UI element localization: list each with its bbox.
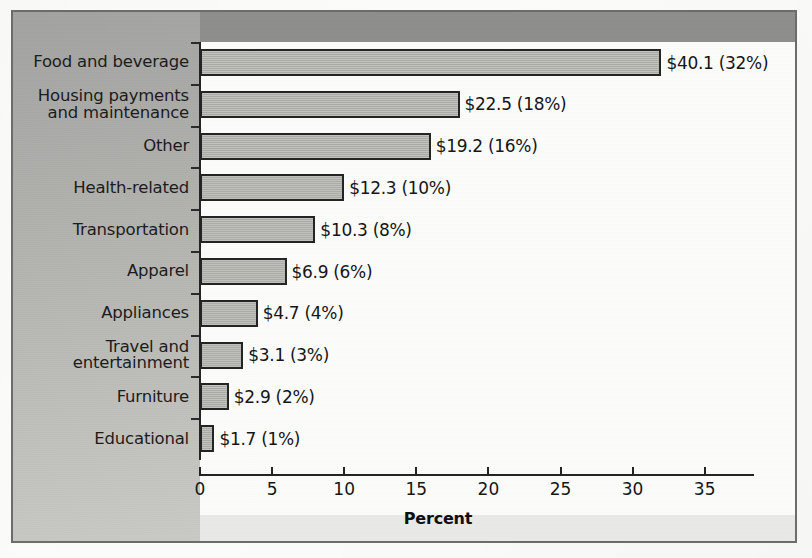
x-axis-tick <box>271 467 273 476</box>
bar-value-label: $3.1 (3%) <box>248 342 329 369</box>
x-axis-tick-label: 10 <box>324 479 364 499</box>
bar-value-label: $22.5 (18%) <box>465 91 567 118</box>
x-axis-tick <box>487 467 489 476</box>
bar-value-label: $12.3 (10%) <box>349 174 451 201</box>
bar-row: Food and beverage$40.1 (32%) <box>13 42 797 84</box>
bar-row: Apparel$6.9 (6%) <box>13 251 797 293</box>
x-axis-line <box>199 474 754 476</box>
bar-row: Travel and entertainment$3.1 (3%) <box>13 335 797 377</box>
category-label: Educational <box>13 418 189 460</box>
y-axis-line <box>199 42 201 460</box>
bar-value-label: $40.1 (32%) <box>666 49 768 76</box>
bar-value-label: $1.7 (1%) <box>219 425 300 452</box>
x-axis-tick <box>415 467 417 476</box>
bar <box>200 342 243 369</box>
bar-chart-figure: Food and beverage$40.1 (32%)Housing paym… <box>11 10 797 543</box>
category-label: Housing payments and maintenance <box>13 84 189 126</box>
bar <box>200 133 431 160</box>
bar-value-label: $6.9 (6%) <box>292 258 373 285</box>
bar-row: Educational$1.7 (1%) <box>13 418 797 460</box>
bar <box>200 174 344 201</box>
category-label: Appliances <box>13 293 189 335</box>
category-label: Travel and entertainment <box>13 335 189 377</box>
bar <box>200 300 258 327</box>
bar-rows: Food and beverage$40.1 (32%)Housing paym… <box>13 42 797 460</box>
x-axis-tick <box>343 467 345 476</box>
bar-row: Transportation$10.3 (8%) <box>13 209 797 251</box>
scanned-page: Food and beverage$40.1 (32%)Housing paym… <box>0 0 812 558</box>
x-axis-tick-label: 25 <box>541 479 581 499</box>
bar <box>200 91 460 118</box>
x-axis-tick-label: 20 <box>468 479 508 499</box>
x-axis-title: Percent <box>13 509 797 528</box>
category-label: Other <box>13 126 189 168</box>
category-label: Food and beverage <box>13 42 189 84</box>
bar-row: Health-related$12.3 (10%) <box>13 167 797 209</box>
x-axis-tick-label: 30 <box>613 479 653 499</box>
bar-row: Housing payments and maintenance$22.5 (1… <box>13 84 797 126</box>
x-axis-tick <box>704 467 706 476</box>
category-label: Apparel <box>13 251 189 293</box>
category-label: Furniture <box>13 376 189 418</box>
x-axis-tick-label: 0 <box>180 479 220 499</box>
bar-value-label: $10.3 (8%) <box>320 216 411 243</box>
bar-value-label: $4.7 (4%) <box>263 300 344 327</box>
bar <box>200 216 315 243</box>
x-axis-tick <box>199 467 201 476</box>
category-label: Transportation <box>13 209 189 251</box>
x-axis-tick <box>560 467 562 476</box>
bar <box>200 49 661 76</box>
bar-value-label: $2.9 (2%) <box>234 383 315 410</box>
x-axis-tick-label: 15 <box>396 479 436 499</box>
x-axis-tick <box>632 467 634 476</box>
bar-value-label: $19.2 (16%) <box>436 133 538 160</box>
category-label: Health-related <box>13 167 189 209</box>
bar-row: Other$19.2 (16%) <box>13 126 797 168</box>
bar-row: Appliances$4.7 (4%) <box>13 293 797 335</box>
bar <box>200 425 214 452</box>
bar <box>200 258 287 285</box>
x-axis-tick-label: 35 <box>685 479 725 499</box>
bar-row: Furniture$2.9 (2%) <box>13 376 797 418</box>
x-axis-tick-label: 5 <box>252 479 292 499</box>
bar <box>200 383 229 410</box>
